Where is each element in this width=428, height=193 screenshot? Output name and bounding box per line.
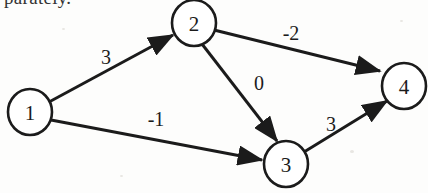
edge-weight-1-2: 3 — [101, 46, 111, 68]
node-2[interactable]: 2 — [172, 0, 216, 46]
edge-weight-2-3: 0 — [254, 72, 264, 94]
node-1[interactable]: 1 — [8, 89, 52, 135]
node-2-label: 2 — [189, 12, 200, 36]
edge-weight-1-3: -1 — [148, 108, 165, 130]
edge-weight-2-4: -2 — [283, 22, 300, 44]
edge-weight-3-4: 3 — [326, 113, 336, 135]
node-3-label: 3 — [281, 153, 292, 177]
node-4-label: 4 — [399, 75, 410, 99]
edge-label-group: 3 -1 -2 0 3 — [101, 22, 336, 135]
edge-2-to-3 — [202, 44, 277, 141]
node-4[interactable]: 4 — [382, 63, 426, 109]
node-3[interactable]: 3 — [264, 141, 308, 187]
node-group: 1 2 3 4 — [8, 0, 426, 187]
edge-1-to-2 — [49, 35, 173, 102]
directed-weighted-graph: 1 2 3 4 3 -1 -2 0 3 — [0, 0, 428, 193]
diagram-canvas: parately. 1 2 — [0, 0, 428, 193]
edge-group — [49, 30, 387, 160]
node-1-label: 1 — [25, 101, 36, 125]
edge-3-to-4 — [304, 101, 387, 152]
